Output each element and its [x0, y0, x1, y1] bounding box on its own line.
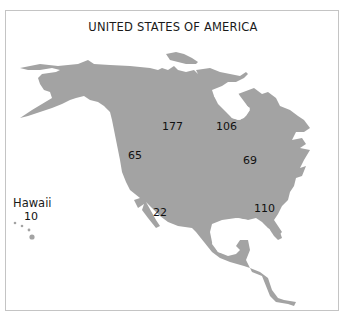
continent-shape [20, 60, 310, 306]
region-value-label: 22 [153, 207, 167, 218]
region-value-label: 65 [128, 150, 142, 161]
north-america-map [0, 0, 346, 324]
region-value-label: 69 [243, 155, 257, 166]
hawaii-label: Hawaii [13, 196, 52, 210]
region-value-label: 177 [162, 121, 183, 132]
region-value-label: 106 [216, 121, 237, 132]
hawaii-value-label: 10 [24, 211, 38, 222]
hawaii-islands [14, 222, 35, 240]
region-value-label: 110 [254, 203, 275, 214]
arctic-island [166, 52, 198, 64]
